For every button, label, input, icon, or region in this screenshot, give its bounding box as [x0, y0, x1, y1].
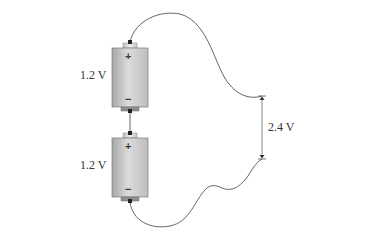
top-battery-negative-sign: − [125, 94, 131, 105]
voltage-bracket [258, 96, 266, 159]
bottom-battery-negative-sign: − [125, 184, 131, 195]
bottom-battery-voltage-label: 1.2 V [80, 158, 106, 173]
top-battery-positive-sign: + [125, 51, 131, 62]
bottom-wire [130, 159, 262, 227]
circuit-svg [0, 0, 369, 246]
bottom-battery-positive-sign: + [125, 141, 131, 152]
total-voltage-label: 2.4 V [268, 120, 294, 135]
top-battery-voltage-label: 1.2 V [80, 68, 106, 83]
top-wire [130, 13, 262, 97]
